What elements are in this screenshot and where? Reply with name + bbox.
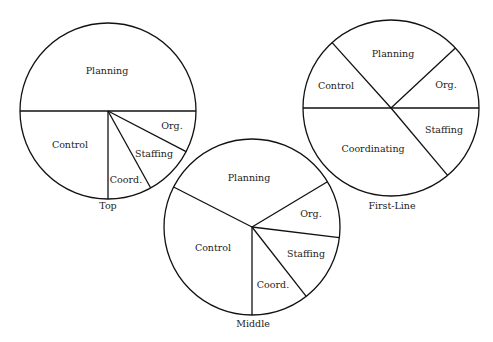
slice-label: Org. [435,79,456,90]
slice-label: Planning [228,172,271,183]
slice-labels: Org.PlanningControlCoordinatingStaffing [318,48,463,154]
slice-label: Control [195,242,231,253]
slice-label: Coord. [257,279,289,290]
slice-label: Org. [300,208,321,219]
figure: PlanningControlCoord.StaffingOrg. Top Or… [0,0,493,342]
slice-label: Control [318,80,354,91]
slice-label: Control [52,139,88,150]
pie-charts: PlanningControlCoord.StaffingOrg. Top Or… [0,0,493,342]
pie-title: Middle [236,318,270,329]
slice-divider [252,182,327,227]
slice-label: Staffing [135,148,173,159]
slice-divider [174,187,252,227]
pie-first-line: Org.PlanningControlCoordinatingStaffing … [303,20,479,211]
slice-label: Coord. [110,174,142,185]
slice-dividers [303,43,479,176]
slice-divider [391,108,448,175]
pie-title: Top [99,200,116,211]
slice-label: Staffing [287,248,325,259]
slice-divider [252,227,339,238]
slice-label: Planning [86,65,129,76]
pie-top: PlanningControlCoord.StaffingOrg. Top [20,23,196,211]
slice-label: Coordinating [341,143,404,154]
pie-title: First-Line [368,200,416,211]
pie-middle: Org.PlanningControlCoord.Staffing Middle [164,139,340,329]
slice-labels: Org.PlanningControlCoord.Staffing [195,172,325,290]
slice-label: Org. [161,120,182,131]
slice-label: Planning [372,48,415,59]
slice-label: Staffing [425,124,463,135]
slice-labels: PlanningControlCoord.StaffingOrg. [52,65,183,185]
